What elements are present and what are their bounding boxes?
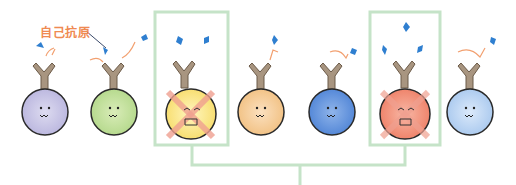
- diagram: 自己抗原: [0, 0, 516, 185]
- cell-3-autoreactive: [166, 36, 216, 139]
- receptor-icon: [393, 61, 415, 88]
- antigen-icon: [403, 22, 410, 32]
- receptor-icon: [102, 63, 124, 89]
- arrow-icon: [270, 50, 278, 60]
- arrow-icon: [458, 48, 485, 57]
- antigen-icon: [382, 45, 387, 55]
- antigen-icon: [36, 42, 44, 48]
- cell-body: [309, 89, 355, 135]
- arrow-icon: [330, 51, 348, 58]
- cell-5: [309, 48, 357, 135]
- self-antigen-label: 自己抗原: [40, 23, 90, 40]
- cell-body: [91, 89, 137, 135]
- cell-body: [238, 89, 284, 135]
- antigen-icon: [141, 34, 148, 41]
- receptor-icon: [33, 63, 55, 89]
- receptor-icon: [249, 63, 271, 89]
- antigen-icon: [417, 45, 423, 53]
- cell-body: [22, 89, 68, 135]
- receptor-icon: [173, 61, 195, 88]
- cell-2: [90, 34, 148, 135]
- cell-6-autoreactive: [380, 22, 430, 139]
- antigen-icon: [490, 37, 496, 45]
- cell-4: [238, 35, 284, 135]
- bracket-connector: [192, 145, 405, 165]
- receptor-icon: [458, 63, 480, 89]
- cell-1: [22, 42, 68, 135]
- arrow-icon: [46, 48, 55, 56]
- antigen-icon: [176, 36, 183, 45]
- cell-7: [447, 37, 496, 135]
- antigen-icon: [204, 36, 209, 44]
- antigen-icon: [350, 48, 357, 55]
- arrow-icon: [90, 42, 135, 62]
- cell-body: [447, 89, 493, 135]
- receptor-icon: [320, 63, 342, 89]
- antigen-icon: [272, 35, 278, 45]
